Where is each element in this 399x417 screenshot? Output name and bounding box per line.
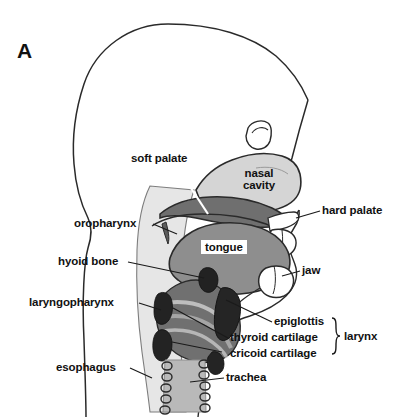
figure-canvas: A soft palate nasal cavity hard palate o… <box>0 0 399 417</box>
label-thyroid-cartilage: thyroid cartilage <box>230 331 318 343</box>
label-cricoid-cartilage: cricoid cartilage <box>230 347 317 359</box>
label-epiglottis: epiglottis <box>274 315 324 327</box>
label-soft-palate: soft palate <box>131 152 187 164</box>
label-oropharynx: oropharynx <box>74 217 136 229</box>
label-tongue: tongue <box>201 240 247 254</box>
mandible-shape <box>259 266 294 298</box>
label-hyoid-bone: hyoid bone <box>58 255 118 267</box>
nasal-bone-inner-icon <box>252 128 268 133</box>
label-nasal-cavity-line1: nasal <box>245 167 274 179</box>
label-jaw: jaw <box>302 264 320 276</box>
label-larynx: larynx <box>344 330 377 342</box>
label-trachea: trachea <box>226 371 266 383</box>
nasal-bone-icon <box>246 121 271 149</box>
label-nasal-cavity: nasal cavity <box>228 167 290 191</box>
arytenoid-shape <box>207 352 224 375</box>
label-hard-palate: hard palate <box>322 204 382 216</box>
hyoid-bone-shape <box>199 268 218 293</box>
label-esophagus: esophagus <box>56 361 116 373</box>
label-nasal-cavity-line2: cavity <box>243 179 275 191</box>
skull-crown-path <box>168 24 308 100</box>
label-laryngopharynx: laryngopharynx <box>29 296 114 308</box>
trachea-group <box>160 360 210 414</box>
cricoid-cartilage-shape <box>153 330 172 361</box>
panel-label-a: A <box>17 40 32 63</box>
larynx-bracket-shape <box>332 318 340 354</box>
